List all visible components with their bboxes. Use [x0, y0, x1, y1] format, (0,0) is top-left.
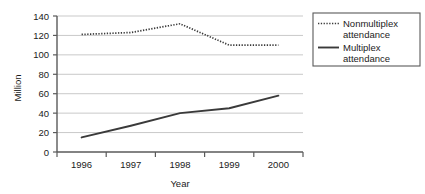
y-tick-label: 120	[33, 30, 49, 41]
chart-container: 140 120 100 80 60 40 20 0 1996 1997 1998…	[0, 0, 425, 194]
line-chart: 140 120 100 80 60 40 20 0 1996 1997 1998…	[0, 0, 425, 194]
y-tick-label: 0	[44, 147, 49, 158]
y-tick-label: 20	[38, 127, 49, 138]
legend-label-multiplex-line1: Multiplex	[343, 42, 381, 53]
y-tick-label: 80	[38, 69, 49, 80]
legend: Nonmultiplex attendance Multiplex attend…	[313, 13, 420, 66]
y-tick-label: 40	[38, 108, 49, 119]
x-tick-label: 1997	[120, 159, 141, 170]
y-axis-title: Million	[12, 75, 23, 102]
y-tick-label: 60	[38, 88, 49, 99]
x-axis-title: Year	[170, 178, 189, 189]
legend-label-nonmultiplex-line1: Nonmultiplex	[343, 18, 398, 29]
y-tick-label: 100	[33, 49, 49, 60]
x-tick-label: 1998	[169, 159, 190, 170]
legend-label-multiplex-line2: attendance	[343, 53, 390, 64]
x-tick-label: 2000	[268, 159, 289, 170]
legend-label-nonmultiplex-line2: attendance	[343, 29, 390, 40]
y-tick-label: 140	[33, 11, 49, 22]
x-tick-label: 1999	[219, 159, 240, 170]
x-tick-label: 1996	[71, 159, 92, 170]
